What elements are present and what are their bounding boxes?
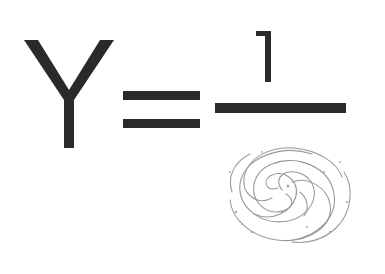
letter-y <box>22 38 118 150</box>
fraction-bar <box>215 103 346 113</box>
equals-bar-bottom <box>123 119 200 128</box>
galaxy-sketch-icon <box>212 132 360 252</box>
equals-bar-top <box>123 91 200 100</box>
numerator-one <box>254 29 274 84</box>
